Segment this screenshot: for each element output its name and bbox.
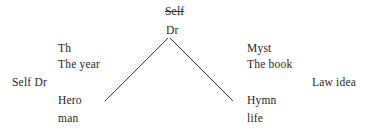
root-label: Dr — [166, 24, 179, 36]
left-branch-item-2: The year — [58, 58, 100, 70]
far-left-label: Self Dr — [12, 76, 47, 88]
diagram-canvas: Self Dr Th The year Hero man Self Dr Mys… — [0, 0, 375, 129]
edge-layer — [0, 0, 375, 129]
right-branch-item-4: life — [247, 112, 263, 124]
edge-right — [170, 38, 233, 101]
left-branch-item-1: Th — [58, 42, 71, 54]
root-struck-label: Self — [165, 5, 184, 17]
right-branch-item-3: Hymn — [247, 94, 277, 106]
left-branch-item-4: man — [58, 112, 78, 124]
right-branch-item-2: The book — [247, 58, 292, 70]
right-branch-item-1: Myst — [247, 42, 271, 54]
edge-left — [105, 38, 168, 101]
left-branch-item-3: Hero — [58, 94, 82, 106]
far-right-label: Law idea — [312, 76, 356, 88]
